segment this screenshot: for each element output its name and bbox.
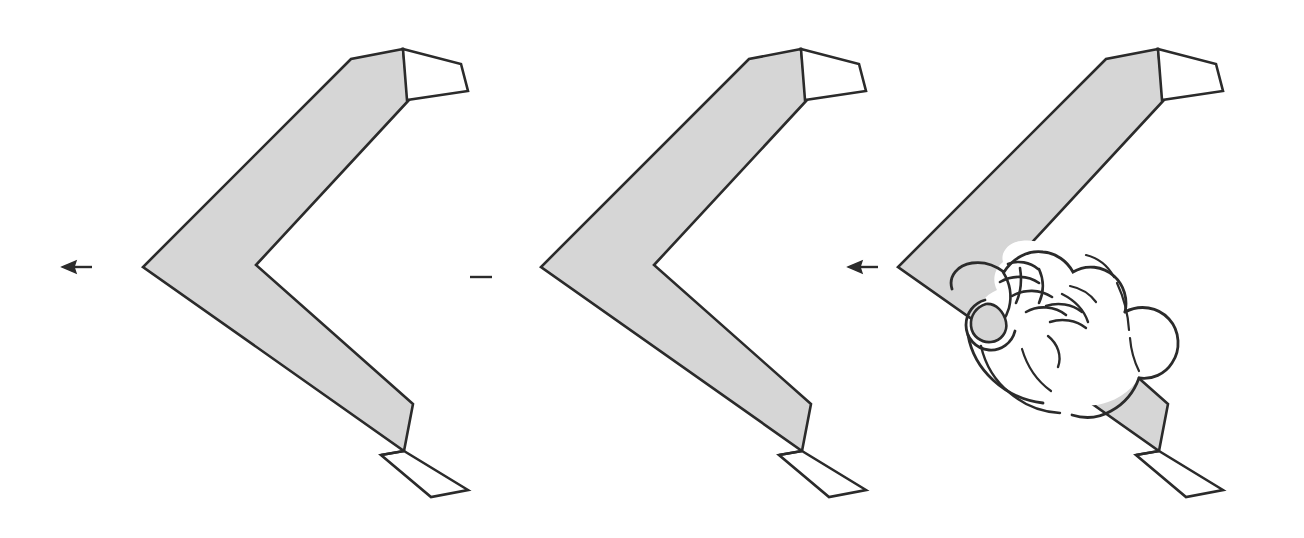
arrow-layer [0, 0, 1304, 538]
illustration-canvas: Origami folding instruction diagram Fini… [0, 0, 1304, 538]
process-arrow-right-icon [848, 261, 878, 273]
process-arrow-left-icon [62, 261, 92, 273]
